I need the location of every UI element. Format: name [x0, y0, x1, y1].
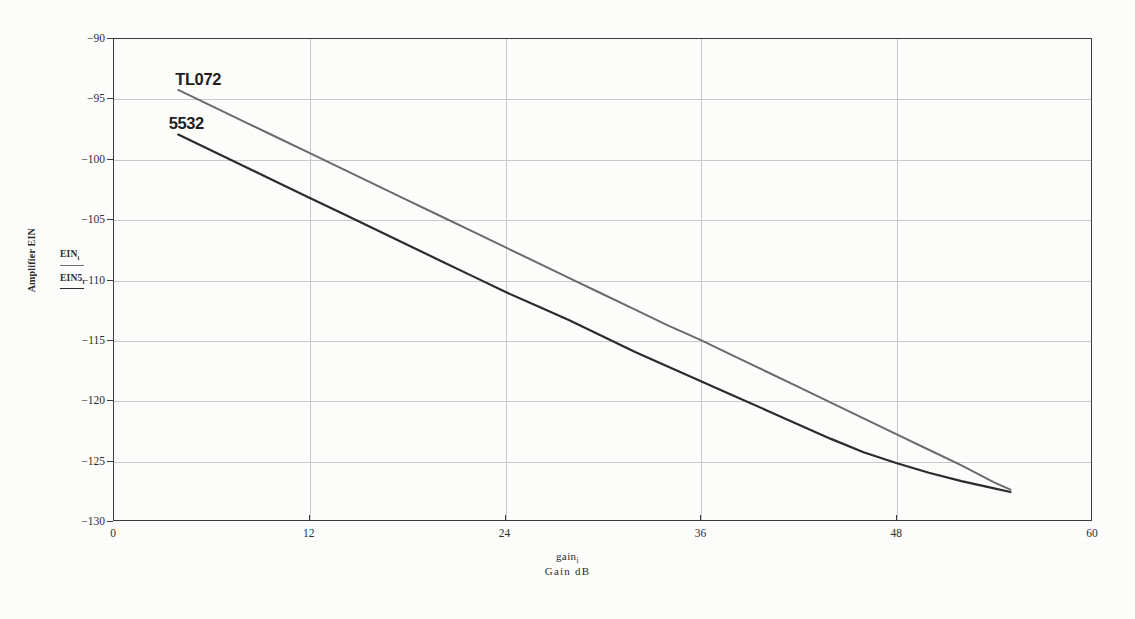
legend-color-swatch	[60, 265, 84, 266]
y-axis-title: Amplifier EIN	[26, 228, 37, 292]
y-axis-tickmark	[107, 219, 113, 220]
x-axis-tick-label: 36	[695, 527, 707, 539]
legend-entry: EIN5i	[60, 274, 108, 290]
legend-entry-label: EINi	[60, 250, 108, 260]
y-axis-tickmark	[107, 159, 113, 160]
y-axis-tickmark	[107, 98, 113, 99]
x-axis-tickmark	[505, 515, 506, 521]
y-axis-tickmark	[107, 521, 113, 522]
x-axis-variable-subscript: i	[577, 556, 580, 565]
x-axis-tickmark	[700, 515, 701, 521]
series-callout-tl072: TL072	[175, 70, 221, 89]
legend-series-name: EIN5	[60, 273, 82, 283]
series-callout-5532: 5532	[169, 114, 204, 133]
y-axis-tickmark	[107, 38, 113, 39]
x-axis-tick-label: 24	[499, 527, 511, 539]
y-axis-tickmark	[107, 400, 113, 401]
legend-series-name: EIN	[60, 249, 78, 259]
legend-series-subscript: i	[78, 254, 80, 261]
y-axis-tickmark	[107, 340, 113, 341]
x-axis-title: gaini Gain dB	[0, 549, 1135, 579]
x-axis-tick-label: 0	[110, 527, 116, 539]
legend-series-subscript: i	[82, 278, 84, 285]
chart-figure: −90−95−100−105−110−115−120−125−130 01224…	[0, 0, 1135, 619]
chart-legend: EINiEIN5i	[60, 250, 108, 297]
y-axis-tickmark	[107, 461, 113, 462]
x-axis-units-label: Gain dB	[0, 564, 1135, 579]
x-axis-variable-name: gain	[556, 550, 577, 562]
x-axis-variable-expression: gaini	[0, 549, 1135, 564]
x-axis-tick-label: 60	[1086, 527, 1098, 539]
legend-entry-label: EIN5i	[60, 274, 108, 284]
x-axis-tick-labels: 01224364860	[0, 0, 1135, 619]
x-axis-tickmark	[896, 515, 897, 521]
x-axis-tick-label: 12	[303, 527, 315, 539]
x-axis-tick-label: 48	[890, 527, 902, 539]
legend-entry: EINi	[60, 250, 108, 266]
x-axis-tickmark	[309, 515, 310, 521]
legend-color-swatch	[60, 288, 84, 289]
